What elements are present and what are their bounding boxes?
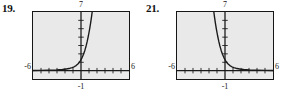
window-label-left-19: -6 [17,63,31,71]
plot-svg-19 [33,12,129,79]
plot-svg-21 [177,12,273,79]
window-label-right-19: 6 [131,63,143,71]
window-label-left-21: -6 [161,63,175,71]
figure-19: 19. 7 -6 6 -1 [0,0,144,98]
plot-area-19 [33,12,129,79]
figure-sheet: 19. 7 -6 6 -1 [0,0,288,98]
calculator-screen-19 [32,11,130,80]
plot-area-21 [177,12,273,79]
window-label-bottom-19: -1 [32,83,130,91]
window-label-top-19: 7 [32,1,130,9]
window-label-top-21: 7 [176,1,274,9]
calculator-screen-21 [176,11,274,80]
exercise-number-21: 21. [146,2,159,14]
window-label-right-21: 6 [275,63,287,71]
figure-21: 21. 7 -6 6 -1 [144,0,288,98]
exercise-number-19: 19. [2,2,15,14]
window-label-bottom-21: -1 [176,83,274,91]
